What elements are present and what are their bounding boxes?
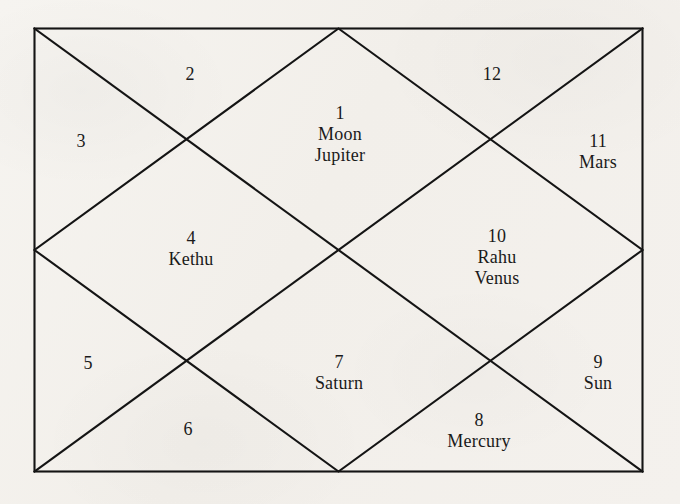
house-8[interactable]: 8 Mercury — [447, 410, 510, 452]
house-4[interactable]: 4 Kethu — [169, 228, 214, 270]
chart-line-art — [0, 0, 680, 504]
house-1-number: 1 — [315, 103, 365, 124]
house-12-number: 12 — [483, 64, 501, 85]
house-2-number: 2 — [185, 64, 194, 85]
house-3[interactable]: 3 — [76, 131, 85, 152]
house-9-planet-1: Sun — [584, 373, 613, 394]
house-10-planet-2: Venus — [475, 268, 520, 289]
house-1[interactable]: 1 Moon Jupiter — [315, 103, 365, 167]
chart-lines — [35, 29, 643, 472]
house-4-number: 4 — [169, 228, 214, 249]
house-10-number: 10 — [475, 226, 520, 247]
house-11[interactable]: 11 Mars — [579, 131, 617, 173]
house-8-planet-1: Mercury — [447, 431, 510, 452]
house-10-planet-1: Rahu — [475, 247, 520, 268]
house-1-planet-2: Jupiter — [315, 145, 365, 166]
house-12[interactable]: 12 — [483, 64, 501, 85]
house-8-number: 8 — [447, 410, 510, 431]
house-11-number: 11 — [579, 131, 617, 152]
house-6[interactable]: 6 — [183, 419, 192, 440]
house-7[interactable]: 7 Saturn — [315, 352, 363, 394]
house-5[interactable]: 5 — [83, 353, 92, 374]
house-9[interactable]: 9 Sun — [584, 352, 613, 394]
vedic-birth-chart: 1 Moon Jupiter 2 3 4 Kethu 5 6 7 Saturn … — [0, 0, 680, 504]
house-1-planet-1: Moon — [315, 124, 365, 145]
house-4-planet-1: Kethu — [169, 249, 214, 270]
house-10[interactable]: 10 Rahu Venus — [475, 226, 520, 290]
house-3-number: 3 — [76, 131, 85, 152]
house-7-number: 7 — [315, 352, 363, 373]
house-2[interactable]: 2 — [185, 64, 194, 85]
house-9-number: 9 — [584, 352, 613, 373]
house-7-planet-1: Saturn — [315, 373, 363, 394]
house-6-number: 6 — [183, 419, 192, 440]
house-5-number: 5 — [83, 353, 92, 374]
house-11-planet-1: Mars — [579, 152, 617, 173]
